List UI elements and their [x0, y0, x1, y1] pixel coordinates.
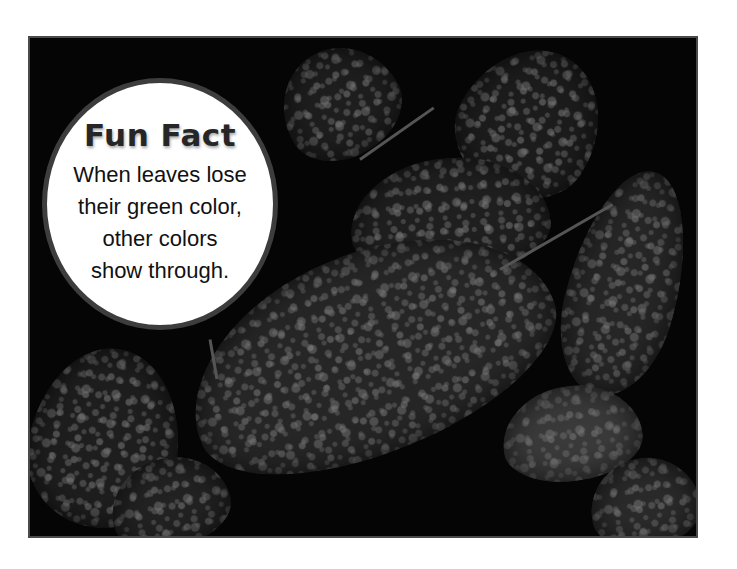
fun-fact-line: other colors: [103, 223, 218, 255]
fun-fact-callout: Fun Fact When leaves lose their green co…: [42, 78, 278, 330]
leaf-shape: [542, 158, 698, 409]
fun-fact-line: When leaves lose: [73, 159, 247, 191]
leaf-shape: [261, 36, 420, 181]
fun-fact-title: Fun Fact: [84, 117, 236, 153]
fun-fact-line: their green color,: [78, 191, 242, 223]
fun-fact-line: show through.: [91, 255, 229, 287]
